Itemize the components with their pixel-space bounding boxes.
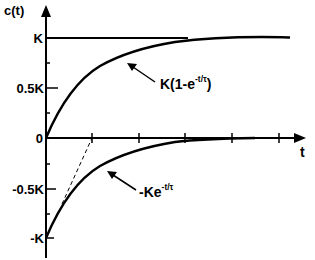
y-tick-label-zero: 0 (36, 131, 43, 146)
y-axis-label: c(t) (4, 3, 24, 18)
arrowhead-icon (127, 63, 137, 71)
decay-curve-label: -Ke-t/τ (139, 182, 174, 200)
x-axis-label: t (300, 144, 305, 160)
y-tick-label-half-K: 0.5K (17, 81, 45, 96)
step-response-chart: c(t) t K 0.5K 0 -0.5K -K K(1-e-t/τ) -Ke-… (0, 0, 315, 260)
y-axis-arrow-icon (41, 5, 51, 17)
initial-tangent-line (62, 138, 92, 204)
y-tick-label-neg-K: -K (30, 231, 44, 246)
arrowhead-icon (107, 171, 117, 179)
y-tick-label-K: K (34, 31, 44, 46)
x-axis-arrow-icon (294, 133, 306, 143)
decay-annotation-arrow (107, 171, 136, 190)
rise-curve-label: K(1-e-t/τ) (160, 74, 212, 92)
rise-annotation-arrow (127, 63, 155, 82)
y-tick-label-neg-half-K: -0.5K (12, 182, 44, 197)
